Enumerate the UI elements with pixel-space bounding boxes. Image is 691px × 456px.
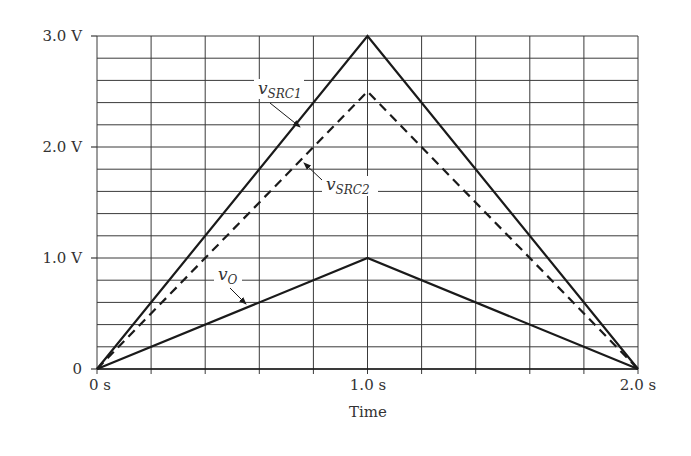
label-vsrc2-sub: SRC2	[336, 183, 370, 197]
label-vo-main: v	[218, 264, 228, 284]
grid-lines	[97, 36, 638, 374]
label-vo-sub: O	[228, 273, 238, 287]
triangle-waveform-chart: 3.0 V 2.0 V 1.0 V 0 0 s 1.0 s 2.0 s Time…	[0, 0, 691, 456]
label-vsrc2-main: v	[326, 174, 336, 194]
x-tick-label-0: 0 s	[89, 376, 111, 394]
y-tick-label-2: 2.0 V	[43, 138, 84, 156]
label-vo: vO	[214, 264, 242, 287]
y-tick-label-1: 1.0 V	[43, 249, 84, 267]
x-tick-labels: 0 s 1.0 s 2.0 s	[89, 376, 656, 394]
label-vsrc1-sub: SRC1	[268, 87, 302, 101]
x-tick-label-1: 1.0 s	[350, 376, 386, 394]
arrow-vo	[230, 288, 246, 304]
y-tick-label-3: 3.0 V	[43, 27, 84, 45]
arrow-vsrc1	[270, 103, 300, 127]
x-tick-label-2: 2.0 s	[620, 376, 656, 394]
label-vsrc2: vSRC2	[322, 174, 378, 197]
label-vsrc1-main: v	[258, 78, 268, 98]
label-vsrc1: vSRC1	[254, 78, 304, 101]
axes	[91, 36, 638, 369]
x-axis-title: Time	[349, 403, 387, 421]
y-tick-labels: 3.0 V 2.0 V 1.0 V 0	[43, 27, 84, 378]
y-tick-label-0: 0	[72, 360, 82, 378]
